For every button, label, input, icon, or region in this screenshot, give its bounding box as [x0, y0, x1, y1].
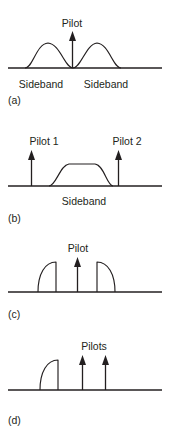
pilot-arrow — [69, 31, 76, 68]
pilot-arrow-1 — [79, 355, 86, 390]
panel-label-c: (c) — [8, 308, 20, 320]
sideband-right-block — [97, 262, 115, 292]
pilot-label: Pilot — [62, 17, 83, 29]
sideband-left-hump — [25, 43, 73, 68]
sideband-right-label: Sideband — [84, 78, 129, 90]
panel-d: Pilots (d) — [0, 328, 170, 434]
pilot-arrow — [74, 257, 81, 292]
panel-label-b: (b) — [8, 212, 21, 224]
pilot-1-arrow — [28, 150, 35, 186]
pilot-1-label: Pilot 1 — [29, 135, 58, 147]
pilot-2-label: Pilot 2 — [112, 135, 141, 147]
panel-c: Pilot (c) — [0, 228, 170, 328]
pilot-2-arrow — [115, 150, 122, 186]
sideband-trapezoid — [49, 164, 113, 186]
pilot-label: Pilot — [68, 242, 89, 254]
spectrum-figure: Pilot Sideband Sideband (a) Pilot 1 Pilo… — [0, 0, 170, 434]
sideband-block — [40, 360, 58, 390]
pilots-label: Pilots — [81, 340, 107, 352]
sideband-right-hump — [73, 43, 121, 68]
panel-b: Pilot 1 Pilot 2 Sideband (b) — [0, 110, 170, 228]
pilot-arrow-2 — [102, 355, 109, 390]
sideband-label: Sideband — [62, 195, 107, 207]
sideband-left-block — [38, 262, 56, 292]
panel-label-d: (d) — [8, 414, 21, 426]
panel-label-a: (a) — [8, 94, 21, 106]
panel-a: Pilot Sideband Sideband (a) — [0, 0, 170, 110]
sideband-left-label: Sideband — [19, 78, 64, 90]
